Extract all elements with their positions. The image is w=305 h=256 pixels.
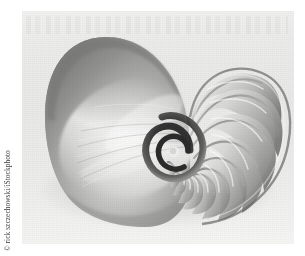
nautilus-shell-illustration [22,11,294,244]
figure-root: © rick szczechowski/iStockphoto [0,0,305,256]
photo-credit: © rick szczechowski/iStockphoto [2,121,14,251]
nautilus-photograph [22,11,294,244]
